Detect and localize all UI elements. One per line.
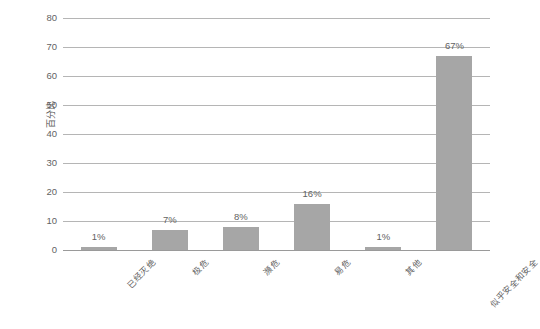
x-tick-label: 濒危 <box>260 256 281 277</box>
bar-value-label: 7% <box>140 214 200 225</box>
bar <box>152 230 188 250</box>
y-tick-label: 40 <box>29 129 57 139</box>
bar-value-label: 16% <box>282 188 342 199</box>
gridline <box>63 105 490 106</box>
bar-value-label: 1% <box>69 231 129 242</box>
gridline <box>63 163 490 164</box>
x-tick-label: 极危 <box>189 256 210 277</box>
y-tick-label: 30 <box>29 158 57 168</box>
x-axis-tick-labels: 已经灭绝极危濒危易危其他似乎安全和安全 <box>63 250 490 329</box>
x-tick-label: 似乎安全和安全 <box>487 256 540 309</box>
bar <box>223 227 259 250</box>
bar <box>436 56 472 250</box>
bar-value-label: 1% <box>353 231 413 242</box>
x-tick-label: 其他 <box>403 256 424 277</box>
y-axis-tick-labels: 01020304050607080 <box>27 18 57 250</box>
y-tick-label: 0 <box>29 245 57 255</box>
y-tick-label: 20 <box>29 187 57 197</box>
bar <box>294 204 330 250</box>
gridline <box>63 192 490 193</box>
x-tick-label: 已经灭绝 <box>123 256 157 290</box>
bar-value-label: 67% <box>424 40 484 51</box>
gridline <box>63 18 490 19</box>
plot-area: 1%7%8%16%1%67% <box>63 18 490 250</box>
y-tick-label: 70 <box>29 42 57 52</box>
y-tick-label: 80 <box>29 13 57 23</box>
gridline <box>63 134 490 135</box>
y-tick-label: 60 <box>29 71 57 81</box>
x-tick-label: 易危 <box>331 256 352 277</box>
y-tick-label: 50 <box>29 100 57 110</box>
y-tick-label: 10 <box>29 216 57 226</box>
gridline <box>63 76 490 77</box>
gridline <box>63 221 490 222</box>
bar-value-label: 8% <box>211 211 271 222</box>
